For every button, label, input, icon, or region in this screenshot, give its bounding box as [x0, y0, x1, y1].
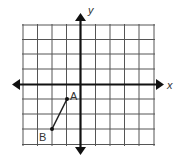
point-b-label: B [39, 131, 46, 143]
x-axis [12, 79, 164, 90]
x-axis-label: x [166, 79, 173, 91]
x-axis-right-arrow-icon [156, 79, 164, 90]
point-a [65, 97, 69, 101]
y-axis-label: y [87, 4, 95, 16]
coordinate-plane: y x A B [0, 0, 181, 162]
point-a-label: A [70, 90, 78, 102]
y-axis-down-arrow-icon [75, 147, 86, 155]
x-axis-left-arrow-icon [12, 79, 20, 90]
point-b [50, 127, 54, 131]
y-axis-up-arrow-icon [75, 13, 86, 21]
